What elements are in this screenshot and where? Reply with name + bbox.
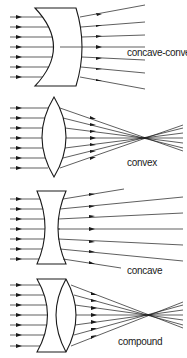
panel-concave-convex: concave-convex bbox=[10, 5, 187, 89]
panel-convex: convex bbox=[10, 97, 183, 177]
lens-types-diagram: concave-convex bbox=[0, 0, 187, 358]
label-concave: concave bbox=[127, 265, 163, 276]
label-convex: convex bbox=[127, 157, 157, 168]
concave-lens bbox=[37, 191, 66, 264]
outgoing-rays bbox=[58, 189, 183, 268]
panel-compound: compound bbox=[10, 279, 183, 352]
panel-concave: concave bbox=[10, 189, 183, 276]
label-compound: compound bbox=[118, 336, 162, 347]
outgoing-rays bbox=[60, 108, 183, 168]
label-concave-convex: concave-convex bbox=[127, 47, 187, 58]
